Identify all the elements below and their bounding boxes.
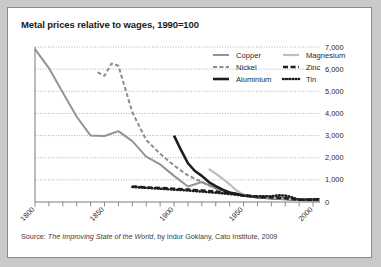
series-line-copper bbox=[35, 49, 320, 200]
x-tick-label: 1800 bbox=[18, 205, 36, 223]
series-line-magnesium bbox=[209, 169, 320, 200]
y-axis-tick-labels: 01,0002,0003,0004,0005,0006,0007,000 bbox=[325, 43, 344, 207]
y-tick-label: 6,000 bbox=[325, 65, 344, 74]
y-tick-label: 2,000 bbox=[325, 153, 344, 162]
chart-panel: Metal prices relative to wages, 1990=100… bbox=[7, 7, 372, 258]
x-tick-label: 1850 bbox=[88, 205, 106, 223]
metal-prices-line-chart: 01,0002,0003,0004,0005,0006,0007,000 180… bbox=[8, 8, 373, 259]
y-tick-label: 3,000 bbox=[325, 131, 344, 140]
legend-label-nickel: Nickel bbox=[236, 63, 257, 72]
x-tick-label: 2000 bbox=[296, 205, 314, 223]
source-prefix: Source: bbox=[21, 232, 48, 241]
y-tick-label: 5,000 bbox=[325, 87, 344, 96]
y-tick-label: 4,000 bbox=[325, 109, 344, 118]
y-tick-label: 1,000 bbox=[325, 175, 344, 184]
legend-label-copper: Copper bbox=[236, 51, 261, 60]
legend-label-aluminium: Aluminium bbox=[236, 75, 271, 84]
y-tick-label: 0 bbox=[325, 198, 329, 207]
source-title: The Improving State of the World bbox=[48, 232, 153, 241]
gridlines-group bbox=[35, 47, 320, 180]
source-suffix: , by Indur Goklany, Cato Institute, 2009 bbox=[153, 232, 277, 241]
legend-label-magnesium: Magnesium bbox=[306, 51, 345, 60]
series-group bbox=[35, 49, 320, 200]
legend-label-tin: Tin bbox=[306, 75, 316, 84]
x-axis-tick-labels: 18001850190019502000 bbox=[18, 205, 314, 223]
series-line-tin bbox=[132, 187, 320, 200]
plot-area-wrapper: 01,0002,0003,0004,0005,0006,0007,000 180… bbox=[8, 8, 373, 259]
legend-label-zinc: Zinc bbox=[306, 63, 321, 72]
x-tick-label: 1900 bbox=[157, 205, 175, 223]
source-citation: Source: The Improving State of the World… bbox=[21, 232, 277, 241]
series-line-nickel bbox=[98, 64, 320, 200]
x-tick-label: 1950 bbox=[227, 205, 245, 223]
axes-group bbox=[35, 47, 320, 207]
